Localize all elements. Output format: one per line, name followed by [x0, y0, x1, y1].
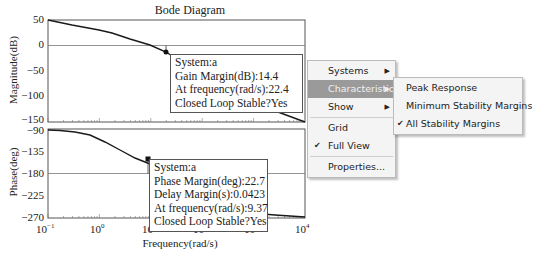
x-tick-base: 10	[295, 223, 306, 235]
x-tick-1e0: 100	[90, 222, 105, 235]
check-icon: ✔	[314, 137, 321, 155]
datatip-system: System:a	[175, 56, 298, 70]
datatip-frequency: At frequency(rad/s):9.37	[154, 202, 263, 216]
menu-item-label: Minimum Stability Margins	[406, 100, 532, 111]
phase-tick-minus135: −135	[6, 145, 44, 157]
datatip-frequency: At frequency(rad/s):22.4	[175, 83, 298, 97]
menu-separator	[310, 156, 393, 157]
menu-item-label: Show	[328, 101, 354, 112]
x-tick-exp: 0	[101, 222, 105, 230]
datatip-system: System:a	[154, 161, 263, 175]
mag-tick-minus50: −50	[10, 64, 44, 76]
phase-tick-minus180: −180	[6, 167, 44, 179]
mag-tick-50: 50	[10, 13, 44, 25]
x-tick-base: 10	[90, 223, 101, 235]
characteristics-submenu: Peak Response Minimum Stability Margins …	[393, 77, 523, 135]
menu-item-label: All Stability Margins	[406, 118, 500, 129]
x-tick-exp: 4	[306, 222, 310, 230]
submenu-item-minimum-stability-margins[interactable]: Minimum Stability Margins	[394, 97, 522, 115]
menu-item-label: Full View	[328, 140, 370, 151]
context-menu: Systems ▶ Characteristics ▶ Show ▶ Grid …	[307, 60, 396, 178]
menu-item-systems[interactable]: Systems ▶	[308, 62, 395, 80]
menu-item-full-view[interactable]: ✔ Full View	[308, 137, 395, 155]
submenu-item-peak-response[interactable]: Peak Response	[394, 79, 522, 97]
datatip-gain-margin: Gain Margin(dB):14.4	[175, 70, 298, 84]
menu-item-label: Properties...	[328, 161, 385, 172]
datatip-phase-margin: Phase Margin(deg):22.7	[154, 175, 263, 189]
submenu-arrow-icon: ▶	[385, 80, 390, 98]
menu-item-label: Peak Response	[406, 82, 477, 93]
menu-item-label: Systems	[328, 65, 368, 76]
phase-margin-datatip[interactable]: System:a Phase Margin(deg):22.7 Delay Ma…	[149, 159, 268, 232]
menu-item-properties[interactable]: Properties...	[308, 158, 395, 176]
datatip-stable: Closed Loop Stable?Yes	[154, 215, 263, 229]
chart-title: Bode Diagram	[140, 3, 240, 18]
phase-tick-minus225: −225	[6, 189, 44, 201]
check-icon: ✔	[397, 115, 404, 133]
datatip-stable: Closed Loop Stable?Yes	[175, 97, 298, 111]
mag-tick-minus100: −100	[6, 89, 44, 101]
gain-margin-marker[interactable]	[164, 50, 169, 55]
x-tick-exp: −1	[47, 222, 54, 230]
datatip-delay-margin: Delay Margin(s):0.0423	[154, 188, 263, 202]
menu-item-label: Grid	[328, 122, 348, 133]
menu-item-characteristics[interactable]: Characteristics ▶	[308, 80, 395, 98]
phase-tick-minus90: −90	[6, 124, 44, 136]
menu-item-grid[interactable]: Grid	[308, 119, 395, 137]
gain-margin-datatip[interactable]: System:a Gain Margin(dB):14.4 At frequen…	[170, 54, 303, 113]
x-tick-1e-1: 10−1	[36, 222, 54, 235]
submenu-item-all-stability-margins[interactable]: ✔ All Stability Margins	[394, 115, 522, 133]
menu-item-show[interactable]: Show ▶	[308, 98, 395, 116]
submenu-arrow-icon: ▶	[385, 98, 390, 116]
x-tick-base: 10	[36, 223, 47, 235]
x-tick-1e4: 104	[295, 222, 310, 235]
mag-tick-0: 0	[10, 38, 44, 50]
x-axis-label: Frequency(rad/s)	[120, 237, 240, 249]
submenu-arrow-icon: ▶	[385, 62, 390, 80]
menu-separator	[310, 117, 393, 118]
